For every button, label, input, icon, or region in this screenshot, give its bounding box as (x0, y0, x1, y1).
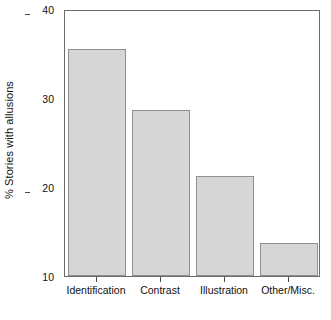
y-tick-label: 10 (30, 271, 54, 283)
y-tick-mark (25, 14, 30, 15)
bar (260, 243, 318, 276)
y-tick-label: 30 (30, 93, 54, 105)
y-tick-mark (25, 192, 30, 193)
bar (132, 110, 190, 276)
x-tick-mark (96, 277, 97, 282)
bar (68, 49, 126, 276)
x-tick-label: Illustration (200, 284, 248, 296)
x-tick-label: Other/Misc. (261, 284, 315, 296)
y-axis-tick-labels: 10203040 (28, 0, 54, 290)
y-tick-label: 40 (30, 4, 54, 16)
bar-chart-figure: % Stories with allusions 10203040 Identi… (0, 0, 331, 320)
x-tick-mark (288, 277, 289, 282)
bars-layer (65, 11, 319, 276)
x-tick-label: Identification (67, 284, 126, 296)
x-tick-mark (160, 277, 161, 282)
y-tick-label: 20 (30, 182, 54, 194)
plot-area (64, 10, 320, 277)
x-tick-label: Contrast (140, 284, 180, 296)
x-tick-mark (224, 277, 225, 282)
bar (196, 176, 254, 276)
y-axis-title: % Stories with allusions (0, 0, 18, 280)
x-axis: IdentificationContrastIllustrationOther/… (64, 277, 320, 317)
y-axis-title-text: % Stories with allusions (3, 81, 15, 199)
